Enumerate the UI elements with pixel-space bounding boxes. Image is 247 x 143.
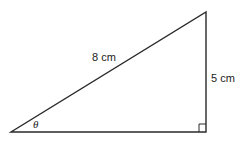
triangle-diagram: 8 cm 5 cm θ: [0, 0, 247, 143]
angle-theta-label: θ: [33, 118, 39, 130]
right-angle-marker: [199, 124, 206, 132]
hypotenuse-label: 8 cm: [92, 51, 116, 63]
opposite-side-label: 5 cm: [211, 72, 235, 84]
triangle: [11, 12, 206, 132]
